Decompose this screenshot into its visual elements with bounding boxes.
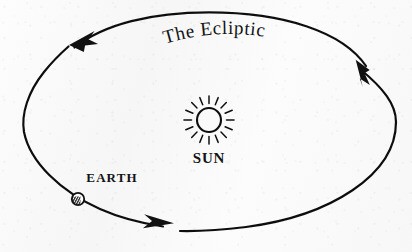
earth-label: EARTH	[86, 170, 137, 185]
earth-globe-icon	[72, 193, 85, 206]
orbit-arc-left	[23, 47, 163, 227]
arrowhead-icon-right	[354, 60, 371, 88]
sun-label: SUN	[193, 150, 225, 166]
page-title: The Ecliptic	[161, 17, 267, 48]
ecliptic-diagram: SUN EARTH The Ecliptic	[0, 0, 412, 252]
sun-rays	[184, 96, 234, 144]
page-title-text: The Ecliptic	[161, 17, 267, 48]
sun-icon	[184, 96, 234, 144]
figure-canvas: SUN EARTH The Ecliptic	[0, 0, 412, 252]
